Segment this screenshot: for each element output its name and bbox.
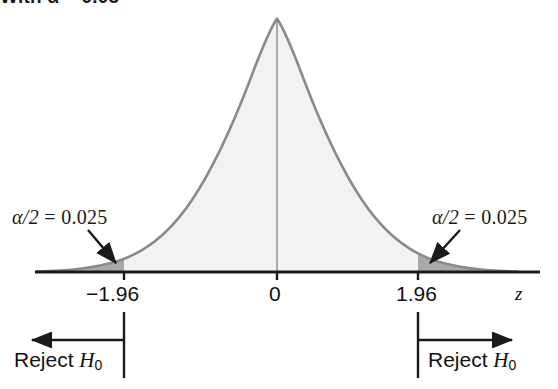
left-reject-label: Reject H0 xyxy=(14,348,102,373)
right-alpha-symbol: α/2 xyxy=(432,206,459,228)
right-reject-text: Reject xyxy=(428,348,493,371)
tick-label-negative-critical: −1.96 xyxy=(86,282,139,306)
left-alpha-symbol: α/2 xyxy=(12,206,39,228)
tick-label-zero: 0 xyxy=(269,282,281,306)
right-reject-label: Reject H0 xyxy=(428,348,516,373)
tick-label-positive-critical: 1.96 xyxy=(396,282,437,306)
right-alpha-label: α/2 = 0.025 xyxy=(432,206,528,229)
right-reject-hypothesis: H xyxy=(493,348,508,372)
left-reject-hypothesis: H xyxy=(79,348,94,372)
right-alpha-equals: = xyxy=(459,206,481,228)
right-alpha-value: 0.025 xyxy=(481,206,528,228)
left-alpha-arrow xyxy=(88,230,116,263)
right-alpha-arrow xyxy=(430,230,460,263)
normal-distribution-figure: With α = 0.05 xyxy=(0,0,558,389)
left-alpha-label: α/2 = 0.025 xyxy=(12,206,108,229)
right-reject-subscript: 0 xyxy=(509,357,517,373)
left-reject-subscript: 0 xyxy=(95,357,103,373)
left-reject-text: Reject xyxy=(14,348,79,371)
axis-variable-label: z xyxy=(515,283,522,305)
left-alpha-value: 0.025 xyxy=(61,206,108,228)
left-alpha-equals: = xyxy=(39,206,61,228)
distribution-plot xyxy=(0,0,558,389)
